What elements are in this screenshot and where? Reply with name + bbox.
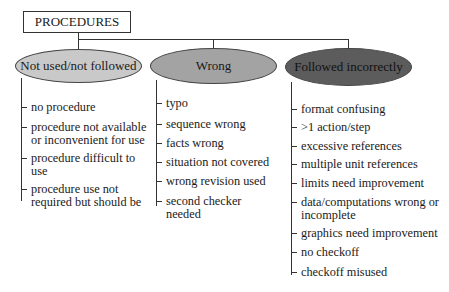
list-item: no procedure xyxy=(31,101,96,114)
column-3-stem xyxy=(291,82,292,275)
item-connector-tick xyxy=(291,233,297,234)
category-node-not-used: Not used/not followed xyxy=(15,49,142,83)
item-connector-tick xyxy=(156,103,162,104)
item-connector-tick xyxy=(291,127,297,128)
list-item-line: facts wrong xyxy=(166,137,224,150)
list-item-line: format confusing xyxy=(301,103,385,116)
list-item-line: >1 action/step xyxy=(301,121,370,134)
item-connector-tick xyxy=(21,127,27,128)
list-item: procedure not availableor inconvenient f… xyxy=(31,121,146,147)
item-connector-tick xyxy=(156,124,162,125)
root-node-procedures: PROCEDURES xyxy=(23,11,131,33)
list-item: multiple unit references xyxy=(301,158,418,171)
item-connector-tick xyxy=(291,202,297,203)
list-item-line: limits need improvement xyxy=(301,177,424,190)
list-item: graphics need improvement xyxy=(301,227,438,240)
list-item-line: typo xyxy=(166,97,188,110)
list-item: sequence wrong xyxy=(166,118,246,131)
list-item: no checkoff xyxy=(301,246,359,259)
item-connector-tick xyxy=(21,107,27,108)
item-connector-tick xyxy=(21,189,27,190)
category-node-followed-incorrectly: Followed incorrectly xyxy=(285,48,412,86)
root-label: PROCEDURES xyxy=(35,14,120,29)
list-item-line: required but should be xyxy=(31,196,141,209)
list-item-line: sequence wrong xyxy=(166,118,246,131)
list-item: procedure difficult touse xyxy=(31,152,135,178)
list-item: checkoff misused xyxy=(301,266,387,279)
list-item-line: excessive references xyxy=(301,140,402,153)
item-connector-tick xyxy=(156,162,162,163)
item-connector-tick xyxy=(21,158,27,159)
list-item-line: checkoff misused xyxy=(301,266,387,279)
list-item-line: use xyxy=(31,165,135,178)
list-item: format confusing xyxy=(301,103,385,116)
list-item: >1 action/step xyxy=(301,121,370,134)
list-item-line: wrong revision used xyxy=(166,175,266,188)
branch-drop-3 xyxy=(348,39,349,48)
item-connector-tick xyxy=(156,143,162,144)
list-item-line: incomplete xyxy=(301,209,439,222)
list-item-line: no checkoff xyxy=(301,246,359,259)
branch-drop-2 xyxy=(213,39,214,48)
item-connector-tick xyxy=(291,146,297,147)
list-item-line: no procedure xyxy=(31,101,96,114)
list-item: procedure use notrequired but should be xyxy=(31,183,141,209)
item-connector-tick xyxy=(291,164,297,165)
category-node-wrong: Wrong xyxy=(150,48,277,84)
item-connector-tick xyxy=(291,183,297,184)
category-label: Followed incorrectly xyxy=(294,59,403,75)
category-label: Wrong xyxy=(196,58,232,74)
list-item-line: situation not covered xyxy=(166,156,269,169)
category-label: Not used/not followed xyxy=(20,58,136,74)
list-item-line: or inconvenient for use xyxy=(31,134,146,147)
list-item: second checkerneeded xyxy=(166,195,241,221)
list-item: typo xyxy=(166,97,188,110)
list-item: facts wrong xyxy=(166,137,224,150)
list-item: situation not covered xyxy=(166,156,269,169)
list-item: data/computations wrong orincomplete xyxy=(301,196,439,222)
item-connector-tick xyxy=(291,272,297,273)
list-item-line: needed xyxy=(166,208,241,221)
list-item-line: graphics need improvement xyxy=(301,227,438,240)
item-connector-tick xyxy=(156,181,162,182)
item-connector-tick xyxy=(291,109,297,110)
item-connector-tick xyxy=(291,252,297,253)
column-1-stem xyxy=(21,78,22,201)
root-connector xyxy=(78,33,79,49)
list-item: excessive references xyxy=(301,140,402,153)
item-connector-tick xyxy=(156,201,162,202)
list-item: wrong revision used xyxy=(166,175,266,188)
list-item: limits need improvement xyxy=(301,177,424,190)
list-item-line: multiple unit references xyxy=(301,158,418,171)
